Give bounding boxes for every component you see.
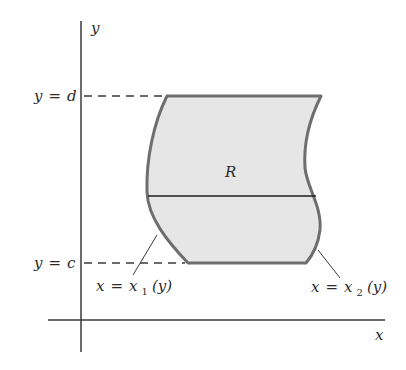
left-curve-leader-line (133, 235, 157, 275)
right-curve-leader-line (318, 250, 340, 278)
region-diagram: y x y = d y = c R x = x 1 (y) x = x 2 (0, 0, 406, 370)
x-axis-label: x (375, 326, 384, 344)
y-axis-label: y (90, 19, 100, 37)
left-curve-label: x = x 1 (y) (96, 277, 172, 298)
upper-bound-label: y = d (33, 87, 77, 105)
region-label: R (224, 163, 236, 181)
right-curve-label: x = x 2 (y) (311, 278, 387, 299)
lower-bound-label: y = c (33, 254, 76, 272)
